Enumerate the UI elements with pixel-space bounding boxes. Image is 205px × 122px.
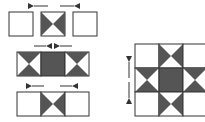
hourglass-square	[65, 52, 89, 76]
plain-square	[17, 92, 41, 116]
middle-row	[17, 46, 89, 76]
top-row	[9, 6, 97, 36]
hourglass-square	[41, 12, 65, 36]
quilt-assembly-diagram	[0, 0, 205, 122]
plain-square	[73, 12, 97, 36]
hourglass-square	[17, 52, 41, 76]
plain-square	[9, 12, 33, 36]
bottom-row	[17, 86, 89, 116]
hourglass-square	[41, 92, 65, 116]
solid-square	[41, 52, 65, 76]
assembled-block	[129, 44, 205, 116]
plain-square	[65, 92, 89, 116]
